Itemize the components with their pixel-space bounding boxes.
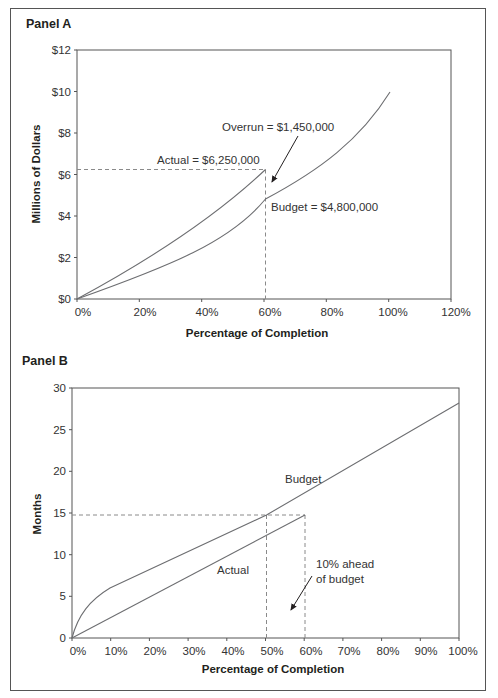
panel-b-chart: 0 5 10 15 20 25 30 0% 10% 20% 30% 40 [31, 382, 478, 675]
panel-a-actual-line [77, 170, 266, 300]
svg-text:80%: 80% [320, 306, 343, 318]
panel-b-budget-line [72, 403, 459, 638]
panel-b-x-tick-labels: 0% 10% 20% 30% 40% 50% 60% 70% 80% 90% 1… [70, 645, 478, 657]
panel-a-x-tick-labels: 0% 20% 40% 60% 80% 100% 120% [75, 306, 471, 318]
svg-text:$8: $8 [58, 127, 71, 139]
svg-text:0%: 0% [75, 306, 92, 318]
panel-a-overrun-arrow-icon [272, 136, 298, 182]
svg-text:$12: $12 [52, 44, 71, 56]
panel-a-x-axis-title: Percentage of Completion [186, 327, 329, 339]
panel-b-actual-line [72, 515, 305, 638]
svg-text:$4: $4 [58, 210, 71, 222]
svg-text:80%: 80% [376, 645, 399, 657]
svg-text:$6: $6 [58, 169, 71, 181]
svg-text:10: 10 [53, 549, 66, 561]
panel-b-x-axis-title: Percentage of Completion [202, 663, 345, 675]
panel-b-y-axis-title: Months [31, 494, 43, 535]
svg-text:90%: 90% [414, 645, 437, 657]
panel-b-y-tick-labels: 0 5 10 15 20 25 30 [53, 382, 66, 644]
svg-text:$2: $2 [58, 252, 71, 264]
svg-text:40%: 40% [195, 306, 218, 318]
svg-text:50%: 50% [260, 645, 283, 657]
panel-a-y-tick-labels: $0 $2 $4 $6 $8 $10 $12 [52, 44, 72, 305]
svg-text:20%: 20% [143, 645, 166, 657]
panel-b-ahead-arrow-icon [291, 576, 312, 610]
svg-text:30: 30 [53, 382, 66, 394]
svg-text:0%: 0% [70, 645, 87, 657]
svg-text:0: 0 [60, 632, 66, 644]
svg-text:60%: 60% [258, 306, 281, 318]
svg-text:120%: 120% [441, 306, 470, 318]
svg-text:25: 25 [53, 424, 66, 436]
panel-b-ahead-annotation-line2: of budget [316, 573, 365, 585]
panel-a-actual-annotation: Actual = $6,250,000 [157, 154, 260, 166]
svg-text:15: 15 [53, 507, 66, 519]
svg-text:$10: $10 [52, 86, 71, 98]
svg-text:20%: 20% [133, 306, 156, 318]
svg-text:100%: 100% [378, 306, 407, 318]
panel-a-chart: $0 $2 $4 $6 $8 $10 $12 0% 20% 40% 60% 80… [30, 44, 471, 339]
panel-b-ahead-annotation-line1: 10% ahead [316, 558, 374, 570]
charts-svg: $0 $2 $4 $6 $8 $10 $12 0% 20% 40% 60% 80… [0, 0, 498, 698]
svg-text:10%: 10% [104, 645, 127, 657]
panel-b-plot-area [72, 388, 459, 638]
svg-text:40%: 40% [221, 645, 244, 657]
svg-text:60%: 60% [299, 645, 322, 657]
panel-b-actual-annotation: Actual [217, 564, 249, 576]
panel-a-plot-area [77, 50, 451, 299]
panel-a-y-axis-title: Millions of Dollars [30, 124, 42, 223]
panel-b-budget-annotation: Budget [285, 473, 322, 485]
svg-text:30%: 30% [182, 645, 205, 657]
panel-a-budget-annotation: Budget = $4,800,000 [271, 201, 378, 213]
svg-text:$0: $0 [58, 293, 71, 305]
panel-a-overrun-annotation: Overrun = $1,450,000 [222, 121, 334, 133]
svg-text:5: 5 [60, 590, 66, 602]
svg-text:20: 20 [53, 465, 66, 477]
svg-text:70%: 70% [337, 645, 360, 657]
svg-text:100%: 100% [448, 645, 477, 657]
